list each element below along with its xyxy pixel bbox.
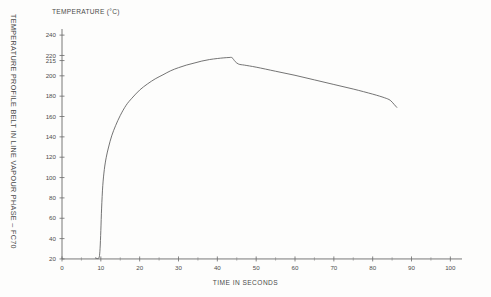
x-tick-label: 50 — [253, 264, 260, 271]
chart-figure: TEMPERATURE PROFILE BELT IN LINE VAPOUR … — [0, 0, 491, 297]
y-tick-label: 160 — [46, 113, 57, 120]
y-tick-label: 120 — [46, 153, 57, 160]
x-tick-label: 10 — [97, 264, 104, 271]
chart-plot-area: 20406080100120140160180200215220240 0102… — [0, 0, 491, 297]
y-tick-label: 80 — [49, 194, 56, 201]
y-tick-label: 140 — [46, 133, 57, 140]
y-tick-label: 180 — [46, 92, 57, 99]
y-tick-label: 20 — [49, 255, 56, 262]
x-axis-title: TIME IN SECONDS — [0, 279, 491, 286]
data-series-group — [95, 57, 396, 258]
y-tick-label: 240 — [46, 31, 57, 38]
y-tick-label: 100 — [46, 174, 57, 181]
x-tick-label: 70 — [330, 264, 337, 271]
x-tick-label: 30 — [175, 264, 182, 271]
y-axis-group: 20406080100120140160180200215220240 — [46, 29, 65, 262]
y-tick-label: 220 — [46, 52, 57, 59]
y-tick-label: 200 — [46, 72, 57, 79]
x-tick-label: 20 — [136, 264, 143, 271]
x-axis-group: 0102030405060708090100 — [60, 256, 462, 271]
x-tick-label: 80 — [369, 264, 376, 271]
y-tick-label: 60 — [49, 214, 56, 221]
x-tick-label: 40 — [214, 264, 221, 271]
data-series-line — [95, 57, 396, 258]
x-tick-label: 90 — [408, 264, 415, 271]
x-tick-label: 60 — [292, 264, 299, 271]
x-tick-label: 100 — [445, 264, 456, 271]
x-tick-label: 0 — [60, 264, 64, 271]
y-tick-label: 40 — [49, 235, 56, 242]
